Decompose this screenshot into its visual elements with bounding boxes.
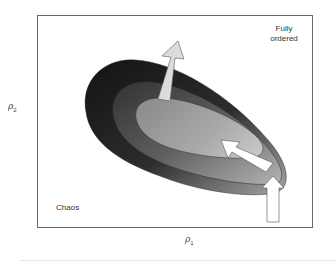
- bottom-divider: [20, 260, 335, 261]
- y-axis-subscript: 2: [13, 107, 16, 113]
- fully-ordered-line2: ordered: [266, 34, 302, 44]
- chaos-label: Chaos: [56, 203, 79, 213]
- x-axis-label: ρ1: [185, 234, 194, 246]
- fully-ordered-label: Fully ordered: [266, 24, 302, 44]
- y-axis-label: ρ2: [8, 101, 17, 113]
- fully-ordered-line1: Fully: [266, 24, 302, 34]
- x-axis-subscript: 1: [190, 240, 193, 246]
